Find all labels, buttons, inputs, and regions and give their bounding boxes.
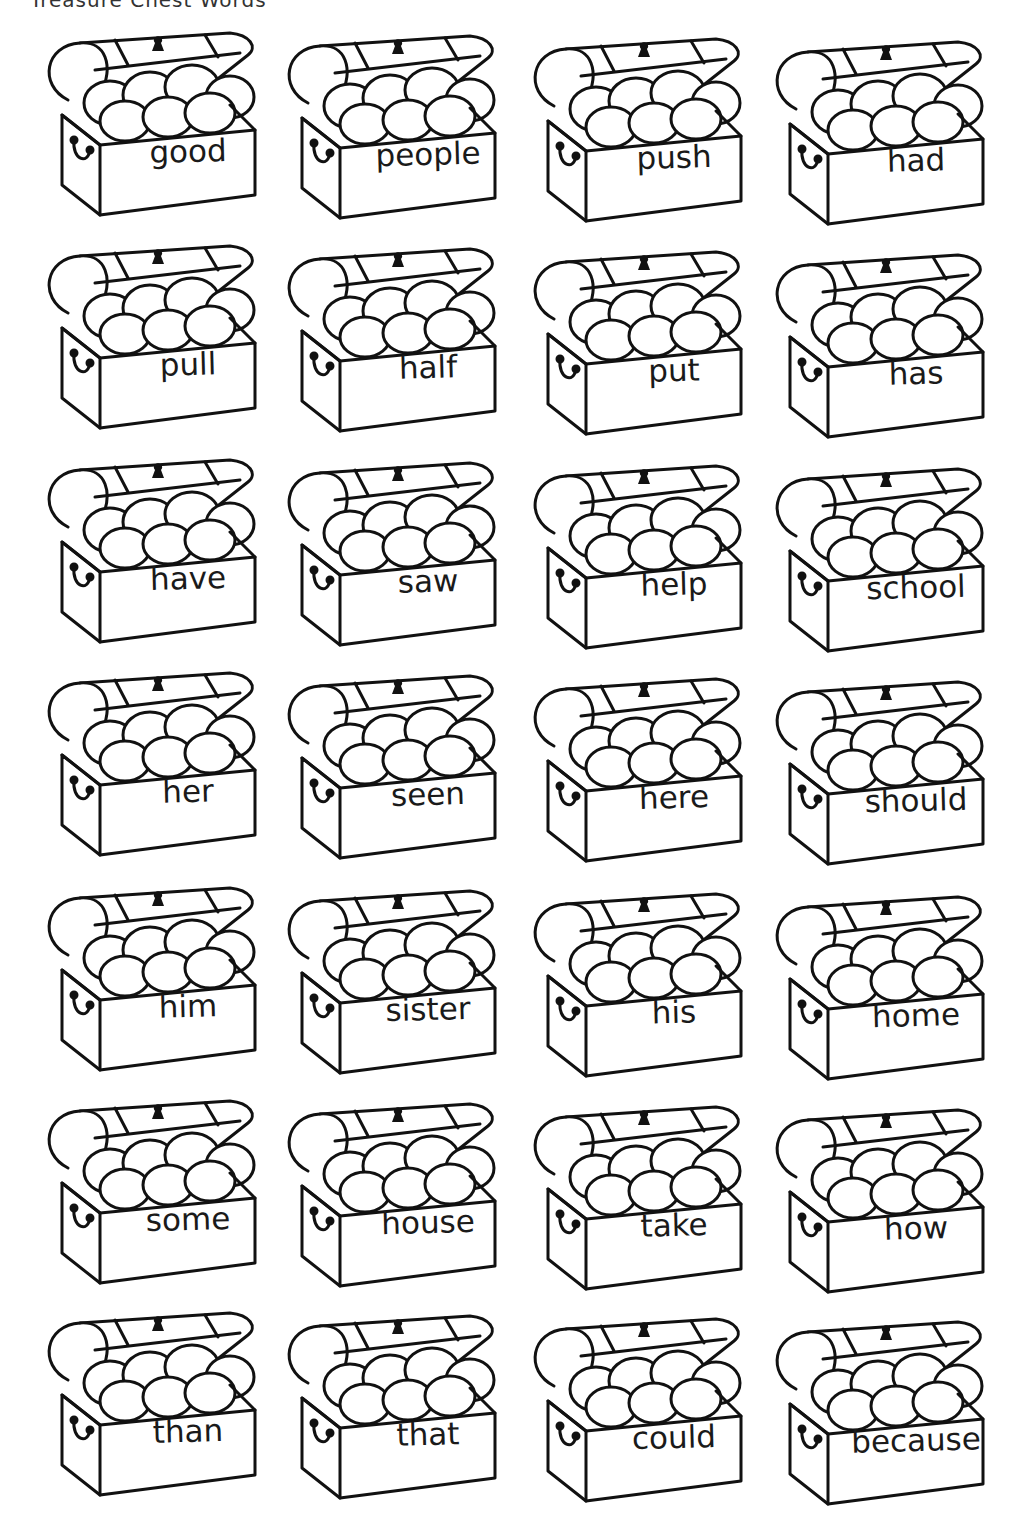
chest-word-label: some xyxy=(118,1199,259,1239)
chest-word-label: her xyxy=(118,771,259,811)
treasure-chest-icon xyxy=(516,31,756,231)
chest-word-label: seen xyxy=(358,774,499,814)
chest-seen: seen xyxy=(270,668,510,868)
chest-word-label: here xyxy=(604,777,745,817)
treasure-chest-icon xyxy=(30,665,270,865)
chest-word-label: saw xyxy=(358,561,499,601)
chest-word-label: how xyxy=(846,1208,987,1248)
chest-house: house xyxy=(270,1096,510,1296)
chest-people: people xyxy=(270,28,510,228)
treasure-chest-icon xyxy=(270,241,510,441)
chest-word-label: school xyxy=(846,567,987,607)
treasure-chest-icon xyxy=(516,244,756,444)
chest-saw: saw xyxy=(270,455,510,655)
chest-have: have xyxy=(30,452,270,652)
chest-word-label: his xyxy=(604,992,745,1032)
cut-off-heading: Treasure Chest Words xyxy=(30,0,267,8)
chest-pull: pull xyxy=(30,238,270,438)
chest-should: should xyxy=(758,674,998,874)
treasure-chest-icon xyxy=(30,1305,270,1505)
treasure-chest-icon xyxy=(516,458,756,658)
treasure-chest-icon xyxy=(270,455,510,655)
chest-word-label: could xyxy=(604,1417,745,1457)
chest-word-label: should xyxy=(846,780,987,820)
treasure-chest-icon xyxy=(758,674,998,874)
chest-take: take xyxy=(516,1099,756,1299)
treasure-chest-icon xyxy=(516,671,756,871)
chest-word-label: house xyxy=(358,1202,499,1242)
chest-than: than xyxy=(30,1305,270,1505)
chest-word-label: help xyxy=(604,564,745,604)
treasure-chest-icon xyxy=(30,1093,270,1293)
chest-word-label: home xyxy=(846,995,987,1035)
chest-some: some xyxy=(30,1093,270,1293)
treasure-chest-icon xyxy=(270,1308,510,1508)
chest-word-label: take xyxy=(604,1205,745,1245)
treasure-chest-icon xyxy=(270,883,510,1083)
treasure-chest-icon xyxy=(30,452,270,652)
treasure-chest-icon xyxy=(270,28,510,228)
chest-word-label: good xyxy=(118,131,259,171)
chest-sister: sister xyxy=(270,883,510,1083)
chest-push: push xyxy=(516,31,756,231)
chest-because: because xyxy=(758,1314,998,1514)
treasure-chest-icon xyxy=(516,886,756,1086)
chest-home: home xyxy=(758,889,998,1089)
chest-word-label: people xyxy=(358,134,499,174)
chest-how: how xyxy=(758,1102,998,1302)
treasure-chest-icon xyxy=(758,1102,998,1302)
chest-could: could xyxy=(516,1311,756,1511)
chest-word-label: sister xyxy=(358,989,499,1029)
treasure-chest-icon xyxy=(30,25,270,225)
chest-word-label: had xyxy=(846,140,987,180)
chest-word-label: because xyxy=(846,1420,987,1460)
treasure-chest-icon xyxy=(758,889,998,1089)
chest-had: had xyxy=(758,34,998,234)
treasure-chest-icon xyxy=(30,238,270,438)
chest-him: him xyxy=(30,880,270,1080)
chest-put: put xyxy=(516,244,756,444)
chest-half: half xyxy=(270,241,510,441)
treasure-chest-icon xyxy=(758,461,998,661)
treasure-chest-icon xyxy=(270,1096,510,1296)
chest-word-label: have xyxy=(118,558,259,598)
chest-word-label: pull xyxy=(118,344,259,384)
chest-word-label: half xyxy=(358,347,499,387)
chest-help: help xyxy=(516,458,756,658)
chest-word-label: has xyxy=(846,353,987,393)
chest-school: school xyxy=(758,461,998,661)
chest-good: good xyxy=(30,25,270,225)
treasure-chest-icon xyxy=(758,1314,998,1514)
chest-his: his xyxy=(516,886,756,1086)
treasure-chest-icon xyxy=(758,247,998,447)
chest-here: here xyxy=(516,671,756,871)
chest-has: has xyxy=(758,247,998,447)
treasure-chest-icon xyxy=(30,880,270,1080)
chest-word-label: push xyxy=(604,137,745,177)
chest-word-label: that xyxy=(358,1414,499,1454)
chest-that: that xyxy=(270,1308,510,1508)
treasure-chest-icon xyxy=(270,668,510,868)
chest-word-label: him xyxy=(118,986,259,1026)
treasure-chest-icon xyxy=(516,1311,756,1511)
chest-her: her xyxy=(30,665,270,865)
treasure-chest-icon xyxy=(516,1099,756,1299)
treasure-chest-icon xyxy=(758,34,998,234)
chest-word-label: put xyxy=(604,350,745,390)
chest-word-label: than xyxy=(118,1411,259,1451)
